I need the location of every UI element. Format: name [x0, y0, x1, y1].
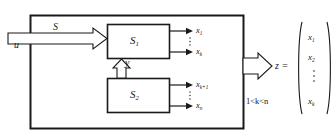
vector-ellipsis	[313, 70, 315, 82]
vector-entry-2: x2	[308, 53, 315, 62]
constraint-label: 1<k<n	[246, 97, 268, 106]
input-bus-label-s: S	[53, 22, 58, 32]
vector-entry-1: x1	[308, 33, 315, 42]
output-label-upper-first: x1	[196, 26, 202, 35]
output-ellipsis-lower	[189, 91, 190, 99]
input-signal-label-u: u	[14, 40, 19, 50]
block-diagram-figure: u S S1 S2 y x1 xk xk+1 xn z = 1<k<n x1 x…	[0, 0, 335, 140]
output-label-lower-first: xk+1	[196, 80, 208, 89]
output-label-upper-last: xk	[196, 47, 202, 56]
output-bus-label-z: z =	[275, 61, 288, 71]
output-label-lower-last: xn	[196, 101, 202, 110]
output-line-lower-2	[170, 103, 194, 109]
output-ellipsis-upper	[189, 37, 190, 45]
output-line-upper-2	[170, 49, 194, 55]
output-line-lower-1	[170, 82, 194, 88]
output-line-upper-1	[170, 28, 194, 34]
block-s1-label: S1	[130, 35, 139, 46]
vector-entry-last: xk	[308, 97, 314, 106]
block-s2-label: S2	[130, 89, 139, 100]
feedback-label-y: y	[125, 58, 129, 68]
output-bus-arrow	[243, 53, 272, 79]
